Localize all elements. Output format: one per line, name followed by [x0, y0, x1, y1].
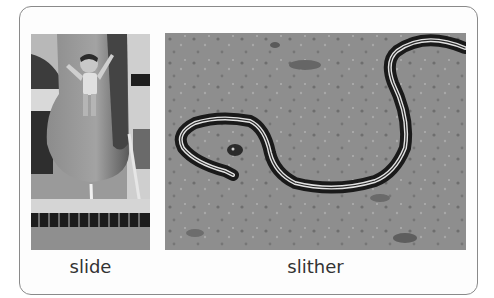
slide-photo: [31, 34, 150, 250]
slither-photo: [165, 33, 466, 250]
slide-image: [31, 34, 150, 250]
caption-slide: slide: [31, 255, 150, 279]
slither-image: [165, 33, 466, 250]
caption-slither: slither: [165, 255, 466, 279]
